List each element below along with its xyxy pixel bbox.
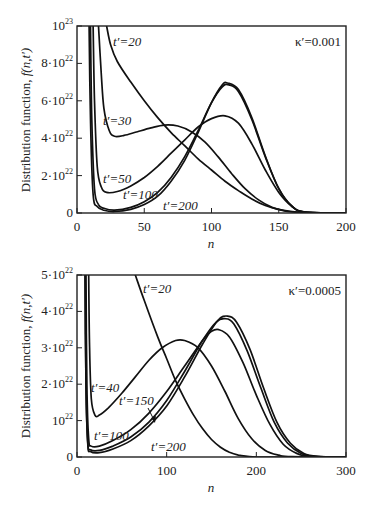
y-tick-label: 2·1022: [41, 167, 73, 183]
x-tick-label: 0: [74, 219, 81, 234]
bottom-curve-20: [135, 245, 346, 457]
top-curve-20: [107, 0, 346, 213]
curve-label: t′=150: [119, 393, 154, 408]
y-tick-label: 4·1022: [41, 302, 73, 318]
bottom-curve-100: [86, 245, 346, 457]
bottom-curve-200: [85, 245, 346, 457]
x-tick-label: 50: [138, 219, 151, 234]
x-tick-label: 0: [74, 463, 81, 478]
curve-label: t′=40: [91, 380, 120, 395]
top-x-axis-title: n: [208, 236, 215, 251]
bottom-kappa-annotation: κ′=0.0005: [289, 283, 341, 298]
y-tick-label: 3·1022: [41, 339, 73, 355]
top-y-axis-title-text: Distribution function,: [18, 76, 33, 192]
y-tick-label: 4·1022: [41, 129, 73, 145]
curve-label: t′=30: [103, 113, 132, 128]
top-chart-ticks: 05010015020002·10224·10226·10228·1022102…: [41, 17, 356, 234]
curve-label: t′=200: [151, 439, 186, 454]
y-tick-label: 1023: [52, 17, 73, 33]
bottom-y-axis-title-text: Distribution function,: [18, 322, 33, 438]
curve-label: t′=50: [103, 171, 132, 186]
bottom-chart-curve-labels: t′=20t′=40t′=150t′=100t′=200: [91, 281, 186, 454]
y-tick-label: 8·1022: [41, 54, 73, 70]
x-tick-label: 300: [336, 463, 356, 478]
bottom-chart-curves: [85, 245, 346, 457]
curve-label: t′=100: [123, 187, 158, 202]
x-tick-label: 100: [202, 219, 222, 234]
bottom-y-axis-title-func: f(n,t′): [18, 294, 33, 322]
bottom-x-axis-title: n: [208, 480, 215, 495]
y-tick-label: 0: [67, 449, 74, 464]
bottom-curve-150: [85, 245, 346, 457]
curve-label: t′=200: [163, 198, 198, 213]
x-tick-label: 200: [336, 219, 356, 234]
x-tick-label: 150: [269, 219, 289, 234]
y-tick-label: 0: [67, 205, 74, 220]
curve-label: t′=20: [113, 34, 142, 49]
x-tick-label: 200: [247, 463, 267, 478]
y-tick-label: 5·1022: [41, 266, 73, 282]
curve-label: t′=100: [94, 428, 129, 443]
y-tick-label: 2·1022: [41, 375, 73, 391]
top-y-axis-title-func: f(n,t′): [18, 48, 33, 76]
x-tick-label: 100: [157, 463, 177, 478]
bottom-curve-40: [89, 245, 346, 457]
top-chart-panel: 05010015020002·10224·10226·10228·1022102…: [18, 0, 356, 251]
top-curve-30: [99, 0, 347, 213]
y-tick-label: 1022: [52, 412, 73, 428]
top-kappa-annotation: κ′=0.001: [295, 34, 341, 49]
top-y-axis-title: Distribution function, f(n,t′): [18, 48, 33, 192]
bottom-y-axis-title: Distribution function, f(n,t′): [18, 294, 33, 438]
figure-canvas: 05010015020002·10224·10226·10228·1022102…: [0, 0, 367, 514]
bottom-chart-panel: 0100200300010222·10223·10224·10225·1022 …: [18, 245, 356, 495]
curve-label: t′=20: [143, 281, 172, 296]
y-tick-label: 6·1022: [41, 92, 73, 108]
